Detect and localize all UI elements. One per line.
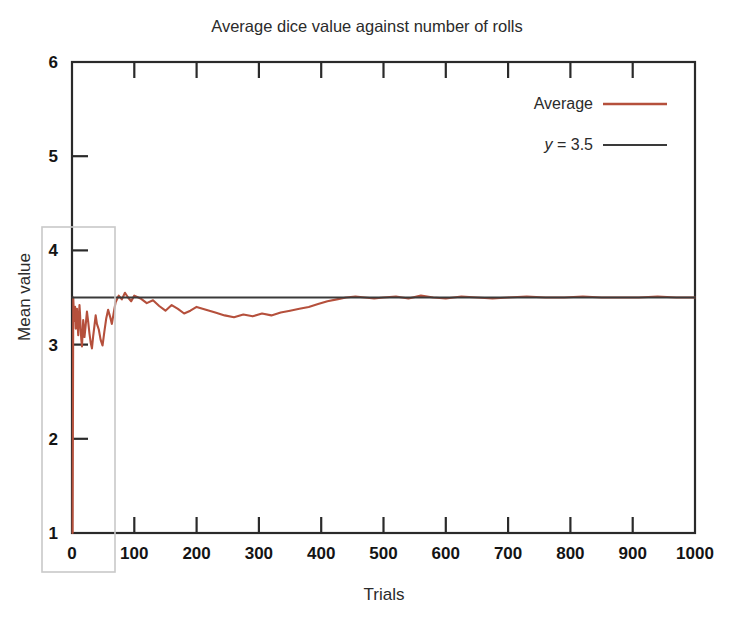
y-tick-label-group: 123456 bbox=[49, 53, 59, 543]
x-tick-label-900: 900 bbox=[619, 544, 647, 563]
x-tick-label-600: 600 bbox=[432, 544, 460, 563]
x-tick-label-100: 100 bbox=[120, 544, 148, 563]
x-tick-label-400: 400 bbox=[307, 544, 335, 563]
x-tick-label-200: 200 bbox=[182, 544, 210, 563]
y-axis-label: Mean value bbox=[15, 253, 34, 341]
series-line-average bbox=[73, 293, 695, 533]
chart-canvas: Average dice value against number of rol… bbox=[0, 0, 735, 617]
x-tick-label-300: 300 bbox=[245, 544, 273, 563]
y-tick-label-2: 2 bbox=[49, 430, 58, 449]
chart-title: Average dice value against number of rol… bbox=[211, 17, 523, 35]
y-tick-label-4: 4 bbox=[49, 241, 59, 260]
y-tick-label-3: 3 bbox=[49, 336, 58, 355]
y-tick-label-6: 6 bbox=[49, 53, 58, 72]
x-tick-label-1000: 1000 bbox=[676, 544, 714, 563]
early-trials-highlight-box[interactable] bbox=[42, 227, 115, 572]
plot-series-group bbox=[72, 293, 695, 533]
y-tick-label-1: 1 bbox=[49, 524, 58, 543]
x-tick-label-700: 700 bbox=[494, 544, 522, 563]
y-tick-label-5: 5 bbox=[49, 147, 58, 166]
x-tick-label-group: 01002003004005006007008009001000 bbox=[67, 544, 714, 563]
legend: Averagey = 3.5 bbox=[534, 95, 667, 153]
x-tick-label-800: 800 bbox=[556, 544, 584, 563]
legend-label-average: Average bbox=[534, 95, 593, 112]
chart-figure: Average dice value against number of rol… bbox=[0, 0, 735, 617]
legend-label-y-equals-3-5: y = 3.5 bbox=[544, 136, 594, 153]
x-tick-label-500: 500 bbox=[369, 544, 397, 563]
x-tick-label-0: 0 bbox=[67, 544, 76, 563]
x-axis-label: Trials bbox=[364, 585, 405, 604]
